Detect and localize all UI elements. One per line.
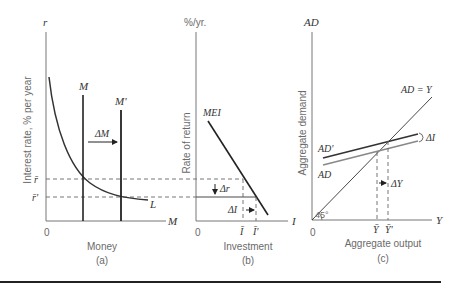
i-bar-label: Ī bbox=[239, 226, 245, 237]
origin-c: 0 bbox=[310, 227, 316, 238]
delta-i-label-b: ΔI bbox=[227, 204, 238, 215]
delta-i-brace bbox=[419, 133, 423, 142]
r-prime-label: r̄' bbox=[32, 192, 39, 203]
axis-y-symbol: Y bbox=[436, 214, 444, 226]
angle-45-label: 45° bbox=[315, 210, 329, 220]
delta-y-label: ΔY bbox=[390, 178, 404, 189]
origin-a: 0 bbox=[44, 227, 50, 238]
curve-l-label: L bbox=[149, 198, 156, 210]
curve-m-label: M bbox=[78, 80, 89, 92]
panel-b-investment: %/yr. I 0 Rate of return Investment (b) … bbox=[181, 17, 297, 266]
delta-r-label: Δr bbox=[219, 183, 230, 194]
caption-a: (a) bbox=[96, 255, 108, 266]
panel-a-money-market: r M 0 Interest rate, % per year Money (a… bbox=[22, 16, 243, 266]
ad-curve bbox=[323, 141, 418, 165]
mei-curve bbox=[208, 121, 268, 215]
axis-percent-year: %/yr. bbox=[184, 17, 206, 28]
axis-i-symbol: I bbox=[291, 215, 297, 227]
y-label-interest-rate: Interest rate, % per year bbox=[22, 76, 33, 184]
ad-equals-y-line bbox=[312, 97, 432, 220]
x-label-investment: Investment bbox=[224, 241, 273, 252]
mei-label: MEI bbox=[202, 107, 221, 118]
i-prime-label: Ī' bbox=[252, 226, 259, 237]
y-bar-label: Ȳ bbox=[373, 224, 380, 235]
y-prime-label: Ȳ' bbox=[385, 224, 394, 235]
ad-equals-y-label: AD = Y bbox=[400, 84, 433, 95]
x-label-money: Money bbox=[87, 241, 117, 252]
delta-i-label-c: ΔI bbox=[425, 132, 436, 143]
axis-r-symbol: r bbox=[43, 16, 48, 28]
x-label-aggregate-output: Aggregate output bbox=[345, 238, 422, 249]
monetary-transmission-diagram: r M 0 Interest rate, % per year Money (a… bbox=[0, 0, 463, 286]
axis-m-symbol: M bbox=[167, 215, 178, 227]
panel-c-aggregate-demand: AD Y 0 Aggregate demand Aggregate output… bbox=[297, 16, 444, 264]
origin-b: 0 bbox=[195, 227, 201, 238]
delta-m-label: ΔM bbox=[94, 128, 110, 139]
ad-label: AD bbox=[317, 169, 332, 180]
caption-c: (c) bbox=[377, 253, 389, 264]
curve-m-prime-label: M' bbox=[114, 95, 127, 107]
y-label-aggregate-demand: Aggregate demand bbox=[297, 90, 308, 175]
ad-prime-label: AD' bbox=[317, 143, 334, 154]
ad-prime-curve bbox=[323, 134, 418, 158]
caption-b: (b) bbox=[242, 255, 254, 266]
y-label-rate-of-return: Rate of return bbox=[181, 112, 192, 173]
axis-ad-symbol: AD bbox=[303, 16, 319, 28]
r-bar-label: r̄ bbox=[34, 174, 39, 185]
